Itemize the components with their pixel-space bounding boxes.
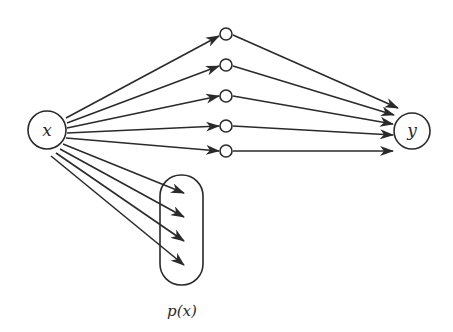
distribution-caption: p(x): [167, 302, 197, 320]
nodes-group: [28, 28, 430, 285]
hidden-to-y-arrow-1: [233, 35, 398, 108]
x-to-hidden-arrow-1: [66, 36, 219, 118]
x-to-hidden-arrow-4: [67, 126, 219, 133]
hidden-node-2: [220, 59, 232, 71]
output-node-label: y: [406, 120, 417, 140]
x-to-hidden-arrow-3: [67, 96, 219, 128]
network-diagram: xyp(x): [0, 0, 453, 332]
input-node-label: x: [42, 120, 52, 140]
hidden-node-5: [220, 145, 232, 157]
distribution-pill-node: [160, 175, 203, 285]
hidden-node-3: [220, 90, 232, 102]
hidden-node-4: [220, 120, 232, 132]
hidden-to-y-arrow-2: [233, 66, 394, 115]
x-to-hidden-arrow-5: [66, 138, 219, 151]
x-to-hidden-arrow-2: [67, 66, 219, 123]
hidden-to-y-arrow-4: [233, 126, 393, 135]
hidden-to-y-arrow-3: [233, 96, 393, 124]
hidden-node-1: [220, 28, 232, 40]
